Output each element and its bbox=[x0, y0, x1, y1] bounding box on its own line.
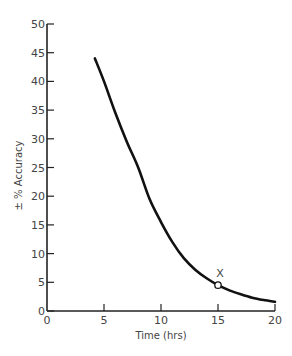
y-tick-label: 10 bbox=[31, 248, 45, 261]
annotations: X bbox=[215, 267, 224, 288]
y-tick-label: 30 bbox=[31, 133, 45, 146]
annotation-label: X bbox=[216, 267, 224, 280]
axes bbox=[47, 24, 275, 311]
x-tick-label: 10 bbox=[154, 314, 168, 327]
x-tick-label: 15 bbox=[211, 314, 225, 327]
y-tick-label: 5 bbox=[38, 276, 45, 289]
marker-circle-icon bbox=[215, 282, 221, 288]
y-tick-label: 20 bbox=[31, 190, 45, 203]
y-tick-label: 50 bbox=[31, 18, 45, 31]
y-tick-label: 40 bbox=[31, 75, 45, 88]
x-axis-label: Time (hrs) bbox=[134, 330, 186, 341]
y-tick-label: 15 bbox=[31, 219, 45, 232]
y-axis-label: ± % Accuracy bbox=[13, 140, 24, 210]
y-tick-label: 45 bbox=[31, 47, 45, 60]
y-tick-label: 25 bbox=[31, 162, 45, 175]
ticks: 0510152025303540455005101520 bbox=[31, 18, 282, 327]
x-tick-label: 20 bbox=[268, 314, 282, 327]
x-tick-label: 0 bbox=[44, 314, 51, 327]
accuracy-curve bbox=[95, 58, 275, 301]
y-tick-label: 35 bbox=[31, 104, 45, 117]
accuracy-chart: 0510152025303540455005101520 X Time (hrs… bbox=[0, 0, 292, 356]
x-tick-label: 5 bbox=[101, 314, 108, 327]
